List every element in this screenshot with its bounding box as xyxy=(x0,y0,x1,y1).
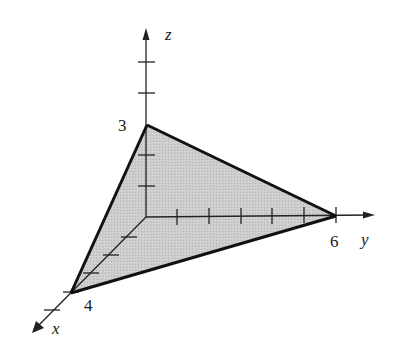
y-axis-arrow-icon xyxy=(363,212,375,219)
y-axis-label: y xyxy=(361,231,369,248)
z-intercept-label: 3 xyxy=(118,117,127,134)
shaded-plane-triangle xyxy=(71,125,336,293)
z-axis-label: z xyxy=(165,26,172,43)
diagram-canvas: z 3 6 y 4 x xyxy=(0,0,393,362)
plane-diagram xyxy=(0,0,393,362)
y-intercept-label: 6 xyxy=(330,233,339,250)
x-intercept-label: 4 xyxy=(84,297,93,314)
x-axis-label: x xyxy=(52,320,60,337)
z-axis-arrow-icon xyxy=(143,28,150,40)
x-axis-arrow-icon xyxy=(32,321,44,333)
